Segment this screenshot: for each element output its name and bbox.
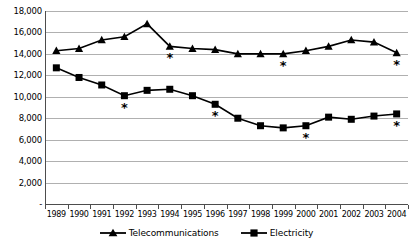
data-point-marker: [121, 92, 128, 99]
data-point-marker: [53, 64, 60, 71]
legend-item-label: Electricity: [270, 228, 314, 238]
asterisk-annotation: *: [208, 111, 222, 121]
asterisk-annotation: *: [390, 60, 404, 70]
data-point-marker: [393, 110, 400, 117]
asterisk-annotation: *: [390, 121, 404, 131]
data-point-marker: [212, 101, 219, 108]
data-point-marker: [280, 124, 287, 131]
data-point-marker: [325, 114, 332, 121]
asterisk-annotation: *: [163, 53, 177, 63]
data-point-marker: [370, 113, 377, 120]
data-point-marker: [189, 92, 196, 99]
chart-legend: TelecommunicationsElectricity: [0, 228, 413, 238]
data-point-marker: [257, 122, 264, 129]
data-point-marker: [144, 87, 151, 94]
data-point-marker: [166, 86, 173, 93]
series-line-electricity: [56, 68, 396, 128]
legend-item[interactable]: Electricity: [241, 228, 314, 238]
series-layer: [0, 0, 413, 248]
line-chart: 18,00016,00014,00012,00010,0008,0006,000…: [0, 0, 413, 248]
data-point-marker: [98, 81, 105, 88]
legend-item-label: Telecommunications: [129, 228, 219, 238]
legend-square-marker-icon: [241, 228, 267, 238]
data-point-marker: [234, 115, 241, 122]
data-point-marker: [302, 122, 309, 129]
data-point-marker: [348, 116, 355, 123]
legend-triangle-marker-icon: [100, 228, 126, 238]
data-point-marker: [393, 49, 401, 56]
legend-item[interactable]: Telecommunications: [100, 228, 219, 238]
asterisk-annotation: *: [299, 133, 313, 143]
asterisk-annotation: *: [276, 61, 290, 71]
data-point-marker: [143, 20, 151, 27]
data-point-marker: [76, 74, 83, 81]
asterisk-annotation: *: [117, 103, 131, 113]
series-line-telecommunications: [56, 24, 396, 54]
